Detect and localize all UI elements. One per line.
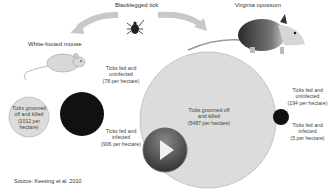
opossum-uninfected-label: Ticks fed and uninfected (194 per hectar… <box>284 87 331 106</box>
mouse-label: White-footed mouse <box>28 41 82 47</box>
opossum-icon <box>188 14 305 54</box>
tick-icon <box>127 20 144 34</box>
source-citation: Source: Keesing et al. 2010 <box>14 178 82 184</box>
tick-label: Blacklegged tick <box>115 2 158 8</box>
play-button[interactable] <box>143 128 187 172</box>
arrow-to-mouse <box>78 15 118 28</box>
opossum-groomed-label: Ticks groomed off and killed (5487 per h… <box>178 107 240 126</box>
mouse-icon <box>24 54 85 81</box>
opossum-label: Virginia opossum <box>235 2 281 8</box>
opossum-infected-label: Ticks fed and infected (5 per hectare) <box>284 122 331 141</box>
mouse-groomed-label: Ticks groomed off and killed (1012 per h… <box>9 105 49 130</box>
arrow-to-opossum <box>158 15 200 24</box>
mouse-uninfected-label: Ticks fed and uninfected (78 per hectare… <box>91 65 151 84</box>
